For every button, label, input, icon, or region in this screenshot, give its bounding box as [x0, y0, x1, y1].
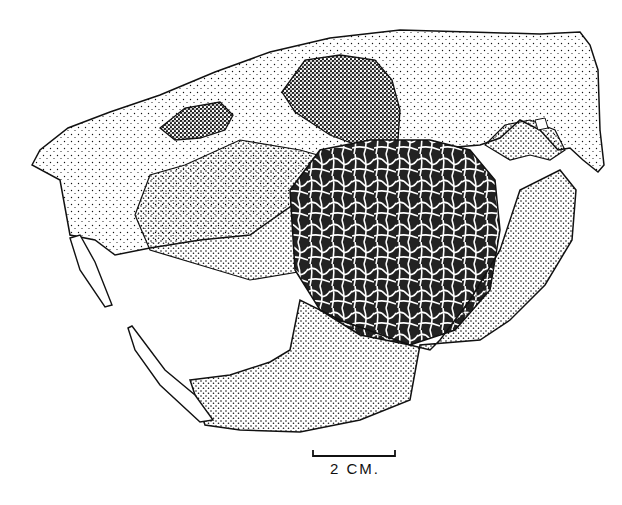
scale-bar — [313, 450, 395, 456]
lower-incisor — [128, 326, 213, 422]
scale-bar-label: 2 CM. — [313, 460, 397, 477]
skull-illustration — [0, 0, 622, 505]
